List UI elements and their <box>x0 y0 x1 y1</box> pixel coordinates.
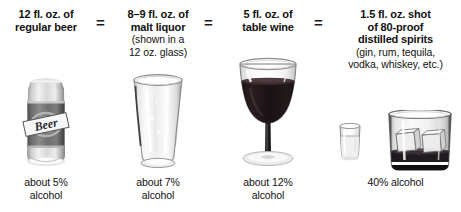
footer-line: alcohol <box>112 189 204 202</box>
footer-line: alcohol <box>0 189 92 202</box>
equals-sign-1: = <box>96 14 105 31</box>
footer-table-wine: about 12% alcohol <box>222 176 314 201</box>
caption-line: regular beer <box>0 21 92 34</box>
rocks-tumbler <box>387 110 453 174</box>
caption-line: 12 fl. oz. of <box>0 8 92 21</box>
beer-can-illustration: Beer <box>0 76 92 168</box>
caption-line: 5 fl. oz. of <box>222 8 314 21</box>
standard-drink-equivalents-poster: 12 fl. oz. of regular beer <box>0 0 461 212</box>
caption-line: 8–9 fl. oz. of <box>112 8 204 21</box>
caption-subnote-line: 12 oz. glass) <box>112 46 204 59</box>
shot-and-tumbler-illustration <box>330 110 461 176</box>
caption-table-wine: 5 fl. oz. of table wine <box>222 8 314 33</box>
footer-line: about 7% <box>112 176 204 189</box>
caption-subnote-line: vodka, whiskey, etc.) <box>330 58 461 71</box>
footer-line: 40% alcohol <box>330 176 461 189</box>
caption-line: distilled spirits <box>330 33 461 46</box>
equals-sign-3: = <box>314 14 323 31</box>
drink-column-table-wine: 5 fl. oz. of table wine <box>222 0 314 212</box>
footer-line: about 12% <box>222 176 314 189</box>
footer-regular-beer: about 5% alcohol <box>0 176 92 201</box>
drink-column-malt-liquor: 8–9 fl. oz. of malt liquor (shown in a 1… <box>112 0 204 212</box>
caption-line: of 80-proof <box>330 21 461 34</box>
footer-distilled-spirits: 40% alcohol <box>330 176 461 189</box>
caption-regular-beer: 12 fl. oz. of regular beer <box>0 8 92 33</box>
caption-subnote-line: (shown in a <box>112 33 204 46</box>
footer-line: alcohol <box>222 189 314 202</box>
drink-column-distilled-spirits: 1.5 fl. oz. shot of 80-proof distilled s… <box>330 0 461 212</box>
shot-glass <box>340 123 360 160</box>
caption-malt-liquor: 8–9 fl. oz. of malt liquor (shown in a 1… <box>112 8 204 58</box>
drink-column-regular-beer: 12 fl. oz. of regular beer <box>0 0 92 212</box>
footer-line: about 5% <box>0 176 92 189</box>
caption-line: table wine <box>222 21 314 34</box>
wine-glass-illustration <box>222 52 314 174</box>
caption-distilled-spirits: 1.5 fl. oz. shot of 80-proof distilled s… <box>330 8 461 71</box>
caption-line: malt liquor <box>112 21 204 34</box>
footer-malt-liquor: about 7% alcohol <box>112 176 204 201</box>
equals-sign-2: = <box>204 14 213 31</box>
caption-subnote-line: (gin, rum, tequila, <box>330 46 461 59</box>
pilsner-glass-illustration <box>112 72 204 170</box>
caption-line: 1.5 fl. oz. shot <box>330 8 461 21</box>
